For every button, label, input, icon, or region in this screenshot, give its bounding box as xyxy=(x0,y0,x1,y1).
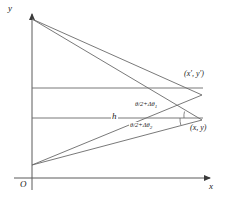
angle-label-upper: θ/2+Δθ1 xyxy=(134,101,158,108)
coordinate-label-primed: (x′, y′) xyxy=(184,70,204,78)
angle-label-upper-subscript: 1 xyxy=(155,104,158,109)
edge-bottomleft-to-upper-vertex xyxy=(32,95,202,165)
angle-arc-upper xyxy=(184,112,185,119)
edge-topleft-to-upper-vertex xyxy=(32,19,202,95)
h-label: h xyxy=(111,112,118,121)
origin-label: O xyxy=(20,180,27,189)
diagram-canvas xyxy=(0,0,228,198)
angle-label-upper-main: θ/2+Δθ xyxy=(135,100,155,107)
coordinate-label-plain: (x, y) xyxy=(190,124,206,132)
edge-bottomleft-to-lower-vertex xyxy=(32,120,202,165)
x-axis-label: x xyxy=(209,182,213,191)
edge-topleft-to-lower-vertex xyxy=(32,19,202,120)
beam-geometry-figure: y x O h (x′, y′) (x, y) θ/2+Δθ1 θ/2+Δθ2 xyxy=(0,0,228,198)
angle-arc-lower xyxy=(180,118,181,125)
angle-label-lower: θ/2+Δθ2 xyxy=(129,122,153,129)
y-axis-label: y xyxy=(8,4,12,13)
angle-label-lower-subscript: 2 xyxy=(150,125,153,130)
angle-label-lower-main: θ/2+Δθ xyxy=(130,121,150,128)
